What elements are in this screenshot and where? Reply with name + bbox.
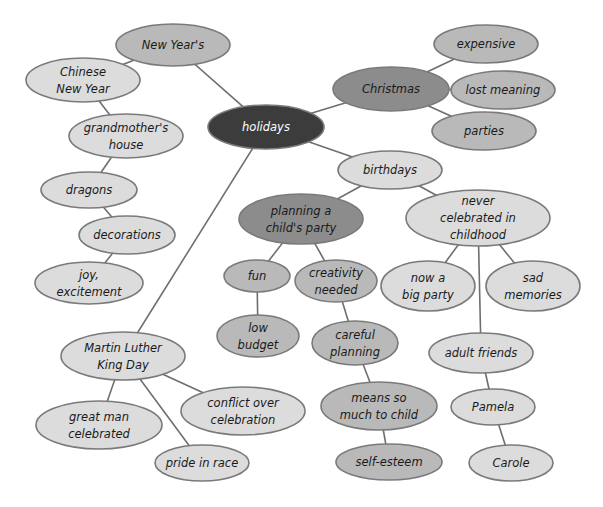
node-label: fun [248,269,267,283]
node-label: adult friends [445,346,518,360]
node-label: pride in race [165,456,239,470]
node-pride-in-race: pride in race [155,445,249,481]
node-expensive: expensive [434,25,538,63]
node-label: Chinese [60,65,106,79]
node-label: parties [463,124,504,138]
node-now-big-party: now abig party [381,261,475,311]
node-label: sad [523,271,544,285]
node-label: holidays [242,120,290,134]
node-label: now a [411,271,445,285]
node-label: King Day [97,358,149,372]
node-label: excitement [56,285,122,299]
node-label: means so [351,391,406,405]
node-joy-excitement: joy,excitement [35,262,143,304]
node-label: dragons [66,183,113,197]
nodes-layer: holidaysNew Year'sChineseNew Yeargrandmo… [26,24,580,481]
node-label: celebration [211,413,276,427]
node-self-esteem: self-esteem [336,444,442,480]
node-label: birthdays [363,163,417,177]
node-christmas: Christmas [333,67,449,111]
node-new-years: New Year's [116,24,230,66]
node-creativity-needed: creativityneeded [295,260,377,302]
node-mlk-day: Martin LutherKing Day [61,332,185,380]
node-pamela: Pamela [451,389,535,425]
node-birthdays: birthdays [338,151,442,189]
node-label: New Year's [142,38,205,52]
node-label: great man [69,410,129,424]
node-label: planning a [270,204,332,218]
node-label: New Year [56,82,111,96]
node-label: needed [314,283,358,297]
node-label: Carole [492,456,529,470]
node-dragons: dragons [41,172,137,208]
node-label: grandmother's [84,121,169,135]
node-chinese-new-year: ChineseNew Year [26,58,140,102]
node-label: self-esteem [355,455,422,469]
node-carole: Carole [469,445,553,481]
node-bubble [486,261,580,311]
node-label: conflict over [207,396,280,410]
node-bubble [239,194,363,244]
node-label: low [248,321,268,335]
node-bubble [381,261,475,311]
node-bubble [321,382,437,430]
node-never-celebrated: nevercelebrated inchildhood [406,190,550,246]
concept-map: holidaysNew Year'sChineseNew Yeargrandmo… [0,0,603,507]
node-label: house [109,138,144,152]
node-label: Martin Luther [84,341,163,355]
node-planning-childs-party: planning achild's party [239,194,363,244]
node-label: lost meaning [466,83,541,97]
node-adult-friends: adult friends [429,333,533,373]
node-bubble [181,387,305,435]
node-lost-meaning: lost meaning [451,71,555,109]
node-label: childhood [450,228,507,242]
node-grandmothers-house: grandmother'shouse [69,114,183,158]
node-parties: parties [432,112,536,150]
node-bubble [36,401,162,449]
node-label: child's party [266,221,337,235]
node-label: joy, [77,268,99,282]
node-label: big party [402,288,454,302]
node-label: celebrated [68,427,130,441]
node-sad-memories: sadmemories [486,261,580,311]
node-means-so-much: means somuch to child [321,382,437,430]
node-careful-planning: carefulplanning [312,321,398,365]
node-label: budget [238,338,279,352]
node-label: celebrated in [440,211,516,225]
node-label: Christmas [362,82,420,96]
node-label: much to child [340,408,419,422]
node-label: Pamela [472,400,515,414]
node-holidays: holidays [208,105,324,149]
node-label: expensive [457,37,516,51]
node-label: memories [504,288,562,302]
node-conflict-over-celebration: conflict overcelebration [181,387,305,435]
node-label: never [462,194,496,208]
node-label: decorations [93,228,161,242]
node-decorations: decorations [79,216,175,254]
node-label: planning [329,345,380,359]
node-great-man: great mancelebrated [36,401,162,449]
node-low-budget: lowbudget [217,315,299,357]
node-label: careful [335,328,376,342]
node-fun: fun [224,260,290,292]
node-label: creativity [309,266,363,280]
node-bubble [61,332,185,380]
